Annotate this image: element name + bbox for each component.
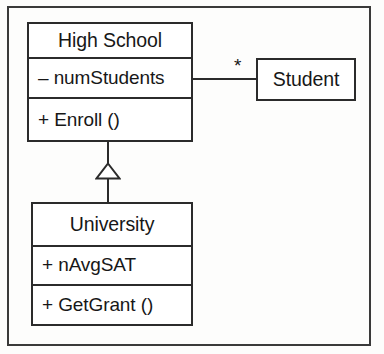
- generalization-line-upper-segment: [107, 141, 109, 164]
- class-attribute-num-students: – numStudents: [29, 57, 191, 98]
- diagram-canvas: High School – numStudents + Enroll () St…: [0, 0, 384, 354]
- class-name-university: University: [33, 204, 191, 245]
- generalization-hollow-triangle-icon: [95, 162, 121, 180]
- class-attribute-navgsat: + nAvgSAT: [33, 245, 191, 285]
- class-name-high-school: High School: [29, 24, 191, 57]
- class-box-high-school[interactable]: High School – numStudents + Enroll (): [27, 22, 193, 142]
- class-operation-enroll: + Enroll (): [29, 97, 191, 140]
- association-line-high-school-student: [192, 78, 257, 80]
- class-operation-getgrant: + GetGrant (): [33, 284, 191, 324]
- class-box-student[interactable]: Student: [256, 58, 356, 101]
- class-name-student: Student: [258, 60, 354, 99]
- association-multiplicity-label: *: [234, 56, 241, 75]
- class-box-university[interactable]: University + nAvgSAT + GetGrant (): [31, 202, 193, 326]
- generalization-line-lower-segment: [107, 179, 109, 203]
